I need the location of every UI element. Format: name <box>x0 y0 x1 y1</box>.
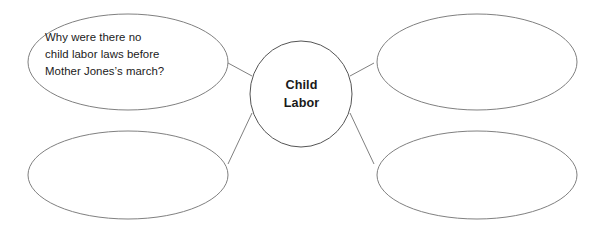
branch-ellipse-bottom-right[interactable] <box>377 131 577 219</box>
connector-top-right <box>350 63 374 76</box>
branch-ellipse-top-left[interactable] <box>28 14 228 110</box>
connector-top-left <box>228 63 252 76</box>
connector-bottom-right <box>350 113 374 164</box>
connector-bottom-left <box>228 113 252 164</box>
diagram-shapes <box>0 0 596 229</box>
concept-web-diagram: Why were there no child labor laws befor… <box>0 0 596 229</box>
branch-ellipse-top-right[interactable] <box>377 14 577 110</box>
center-topic-ellipse[interactable] <box>250 41 352 147</box>
branch-ellipse-bottom-left[interactable] <box>28 131 228 219</box>
